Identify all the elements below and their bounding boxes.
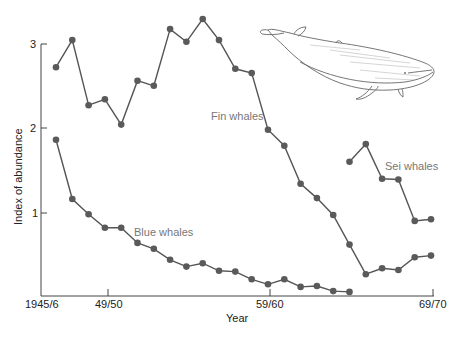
label-fin-whales: Fin whales [211, 110, 264, 122]
data-point [265, 281, 272, 288]
data-point [379, 265, 386, 272]
data-point [428, 252, 435, 259]
data-point [134, 77, 141, 84]
data-point [151, 83, 158, 90]
data-point [248, 276, 255, 283]
data-point [151, 246, 158, 253]
data-point [297, 181, 304, 188]
data-point [379, 175, 386, 182]
x-tick-label-59-60: 59/60 [256, 298, 284, 310]
data-point [118, 121, 125, 128]
data-point [346, 241, 353, 248]
y-tick-label-2: 2 [30, 122, 36, 134]
data-point [85, 211, 92, 218]
y-tick-label-3: 3 [30, 38, 36, 50]
series-line [350, 144, 432, 221]
data-point [102, 96, 109, 103]
data-point [297, 284, 304, 291]
data-point [53, 137, 60, 144]
data-point [363, 141, 370, 148]
data-point [248, 70, 255, 77]
y-axis-title: Index of abundance [12, 128, 24, 225]
data-point [69, 196, 76, 203]
data-point [411, 254, 418, 261]
data-point [395, 176, 402, 183]
data-point [183, 263, 190, 270]
data-point [330, 212, 337, 219]
data-point [281, 276, 288, 283]
data-point [314, 283, 321, 290]
data-point [411, 218, 418, 225]
data-point [428, 216, 435, 223]
data-point [102, 224, 109, 231]
data-point [314, 195, 321, 202]
data-point [232, 268, 239, 275]
series-line [56, 19, 431, 274]
y-tick-label-1: 1 [32, 207, 38, 219]
data-point [118, 224, 125, 231]
data-point [199, 260, 206, 267]
series-sei-whales [346, 141, 434, 224]
data-point [167, 257, 174, 264]
data-point [199, 16, 206, 23]
data-point [330, 288, 337, 295]
data-point [167, 26, 174, 33]
data-point [281, 142, 288, 149]
data-point [395, 267, 402, 274]
data-point [216, 268, 223, 275]
x-axis-title: Year [226, 312, 249, 324]
whale-illustration [260, 27, 434, 99]
data-point [134, 240, 141, 247]
data-point [346, 289, 353, 296]
label-sei-whales: Sei whales [385, 160, 439, 172]
whale-abundance-chart: 3 2 1 1945/6 49/50 59/60 69/70 Year Inde… [0, 0, 460, 339]
data-point [232, 66, 239, 73]
data-point [265, 126, 272, 133]
data-point [69, 37, 76, 44]
data-point [363, 271, 370, 278]
data-point [53, 64, 60, 71]
data-point [346, 159, 353, 166]
data-point [216, 37, 223, 44]
x-tick-label-1945-6: 1945/6 [25, 298, 59, 310]
data-point [183, 39, 190, 46]
data-point [85, 102, 92, 109]
label-blue-whales: Blue whales [134, 226, 194, 238]
series-fin-whales [53, 16, 435, 278]
x-tick-label-49-50: 49/50 [95, 298, 123, 310]
series-line [56, 140, 350, 292]
x-tick-label-69-70: 69/70 [419, 298, 447, 310]
series-blue-whales [53, 137, 353, 296]
